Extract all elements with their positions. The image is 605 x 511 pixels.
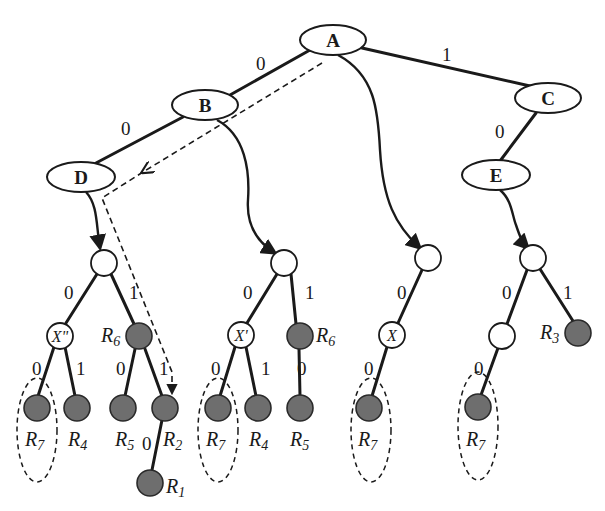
- edge: [246, 347, 256, 396]
- subtree-a: 0 0 X R7: [351, 245, 441, 482]
- edge-label: 1: [129, 282, 139, 303]
- pointer-a-to-subtree: [338, 55, 420, 248]
- edge-label: 0: [474, 358, 484, 379]
- edge-label: 0: [142, 433, 152, 454]
- rule-label-r1: R1: [165, 475, 185, 500]
- node-c: C: [515, 83, 581, 113]
- rule-label-r3: R3: [539, 321, 559, 346]
- rule-node-r2: [152, 395, 178, 421]
- node-b: B: [172, 90, 238, 120]
- edge-label-c-e: 0: [495, 121, 505, 142]
- pointer-b-to-subtree: [217, 120, 275, 253]
- edge-label: 0: [211, 358, 221, 379]
- rule-label-r2: R2: [162, 428, 182, 453]
- rule-node-r5: [287, 395, 313, 421]
- node-c-label: C: [541, 88, 555, 109]
- node-d: D: [47, 162, 115, 192]
- node-d-label: D: [74, 167, 88, 188]
- rule-node-r1: [137, 470, 163, 496]
- node-a-label: A: [326, 30, 340, 51]
- subtree-d: 0 1 0 1 0 1 0 X" R6 R7 R4 R5 R2 R1: [17, 250, 185, 500]
- node-e-label: E: [490, 165, 503, 186]
- edge-label: 1: [159, 358, 169, 379]
- rule-node-r5: [110, 395, 136, 421]
- rule-label-r7: R7: [24, 428, 45, 453]
- rule-node-r6: [126, 323, 152, 349]
- edge-label-b-d: 0: [121, 118, 131, 139]
- edge-a-b: [230, 50, 310, 95]
- edge-c-e: [500, 113, 536, 161]
- edge: [291, 274, 296, 324]
- rule-label-r7: R7: [357, 428, 378, 453]
- edge: [372, 347, 387, 396]
- dashed-group-r7: [351, 378, 391, 482]
- edge-label-a-c: 1: [442, 44, 452, 65]
- rule-label-r4: R4: [67, 428, 87, 453]
- rule-label-r5: R5: [289, 428, 309, 453]
- rule-node-r4: [245, 395, 271, 421]
- rule-node-r7: [24, 395, 50, 421]
- edge-label-a-b: 0: [256, 53, 266, 74]
- rule-label-r7: R7: [205, 428, 226, 453]
- edge-label: 0: [32, 358, 42, 379]
- edge: [481, 348, 498, 395]
- subtree-root-node: [91, 250, 117, 276]
- edge: [152, 420, 162, 470]
- edge: [65, 347, 75, 396]
- node-b-label: B: [199, 95, 212, 116]
- rule-node-r6: [287, 323, 313, 349]
- edge-label: 0: [397, 282, 407, 303]
- dashed-search-path-upper: [143, 63, 322, 172]
- rule-label-r4: R4: [248, 428, 268, 453]
- edge: [125, 349, 135, 396]
- pointer-e-to-subtree: [500, 190, 528, 248]
- edge-label: 1: [261, 358, 271, 379]
- node-x-double-prime-label: X": [51, 328, 69, 345]
- edge-b-d: [96, 117, 183, 163]
- subtree-b: 0 1 0 1 0 X' R6 R7 R4 R5: [198, 250, 335, 482]
- edge-label: 0: [364, 358, 374, 379]
- edge-label: 0: [502, 282, 512, 303]
- pointer-d-to-subtree: [86, 192, 100, 248]
- edge-label: 1: [305, 282, 315, 303]
- subtree-root-node: [271, 250, 297, 276]
- rule-label-r5: R5: [114, 428, 134, 453]
- edge: [220, 347, 235, 396]
- edge-label: 0: [116, 358, 126, 379]
- rule-node-r7: [465, 394, 491, 420]
- subtree-root-node: [520, 245, 546, 271]
- dashed-group-r7: [458, 372, 498, 480]
- rule-label-r6: R6: [315, 324, 335, 349]
- node-x-label: X: [386, 327, 398, 344]
- rule-node-r4: [64, 395, 90, 421]
- edge-label: 0: [243, 282, 253, 303]
- node-a: A: [300, 25, 366, 55]
- subtree-root-node: [415, 245, 441, 271]
- rule-label-r7: R7: [465, 428, 486, 453]
- rule-node-r7: [205, 395, 231, 421]
- rule-label-r6: R6: [100, 324, 120, 349]
- edge-label: 1: [563, 282, 573, 303]
- subtree-e: 0 1 0 R3 R7: [458, 245, 591, 480]
- node-x-prime-label: X': [233, 327, 248, 344]
- node-e: E: [462, 160, 530, 190]
- edge-label: 0: [297, 358, 307, 379]
- intermediate-node: [489, 323, 515, 349]
- edge-label: 0: [64, 282, 74, 303]
- rule-node-r3: [565, 320, 591, 346]
- rule-node-r7: [356, 395, 382, 421]
- edge-label: 1: [76, 358, 86, 379]
- trie-diagram: 0 1 0 0 A B C D E 0 1 0 1: [0, 0, 605, 511]
